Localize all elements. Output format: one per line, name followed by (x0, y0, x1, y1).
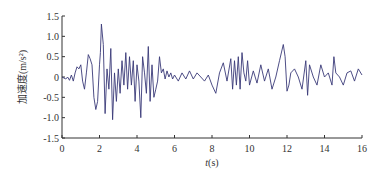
y-tick-label: -1.5 (43, 133, 59, 144)
x-tick-label: 12 (282, 143, 292, 154)
x-tick-label: 6 (172, 143, 177, 154)
acceleration-chart: 1.51.00.50-0.5-1.0-1.5 0246810121416 t(s… (0, 0, 381, 182)
x-axis: 0246810121416 (60, 135, 368, 154)
x-tick-label: 16 (357, 143, 367, 154)
y-tick-label: 1.5 (47, 11, 60, 22)
x-tick-label: 14 (320, 143, 330, 154)
x-tick-label: 4 (135, 143, 140, 154)
y-tick-label: -1.0 (43, 112, 59, 123)
y-tick-label: 0.5 (47, 51, 60, 62)
y-tick-label: 0 (54, 72, 59, 83)
x-tick-label: 0 (60, 143, 65, 154)
x-tick-label: 8 (210, 143, 215, 154)
acceleration-line (62, 24, 362, 120)
x-axis-title: t(s) (205, 157, 218, 169)
y-tick-label: 1.0 (47, 31, 60, 42)
x-tick-label: 2 (97, 143, 102, 154)
y-tick-label: -0.5 (43, 92, 59, 103)
y-axis: 1.51.00.50-0.5-1.0-1.5 (43, 11, 65, 144)
y-axis-title: 加速度(m/s²) (16, 50, 29, 104)
x-tick-label: 10 (245, 143, 255, 154)
